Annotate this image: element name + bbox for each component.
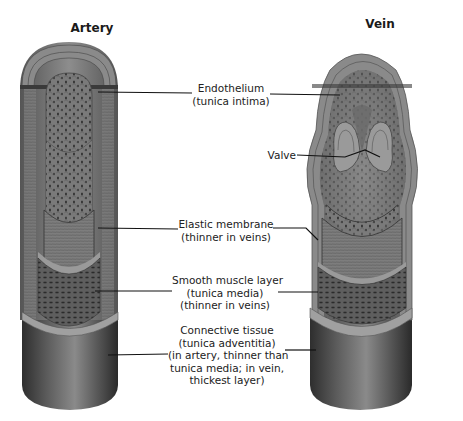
label-connective-line3: (in artery, thinner than <box>168 349 286 362</box>
label-valve-line1: Valve <box>240 149 296 162</box>
artery-title: Artery <box>62 21 122 35</box>
label-elastic-line1: Elastic membrane <box>178 218 274 231</box>
label-connective-tissue: Connective tissue (tunica adventitia) (i… <box>168 324 286 387</box>
leader-elastic-vein <box>273 228 318 240</box>
label-connective-line4: tunica media; in vein, <box>168 362 286 375</box>
artery-illustration <box>20 42 118 410</box>
label-muscle-line3: (thinner in veins) <box>172 299 278 312</box>
label-endothelium: Endothelium (tunica intima) <box>192 82 270 107</box>
vein-title: Vein <box>355 17 405 31</box>
label-smooth-muscle: Smooth muscle layer (tunica media) (thin… <box>172 274 278 312</box>
label-valve: Valve <box>240 149 296 162</box>
label-muscle-line2: (tunica media) <box>172 287 278 300</box>
label-elastic-line2: (thinner in veins) <box>178 231 274 244</box>
label-endothelium-line1: Endothelium <box>192 82 270 95</box>
label-muscle-line1: Smooth muscle layer <box>172 274 278 287</box>
vein-illustration <box>307 54 418 410</box>
label-connective-line2: (tunica adventitia) <box>168 337 286 350</box>
label-connective-line5: thickest layer) <box>168 374 286 387</box>
label-endothelium-line2: (tunica intima) <box>192 95 270 108</box>
label-connective-line1: Connective tissue <box>168 324 286 337</box>
label-elastic-membrane: Elastic membrane (thinner in veins) <box>178 218 274 243</box>
